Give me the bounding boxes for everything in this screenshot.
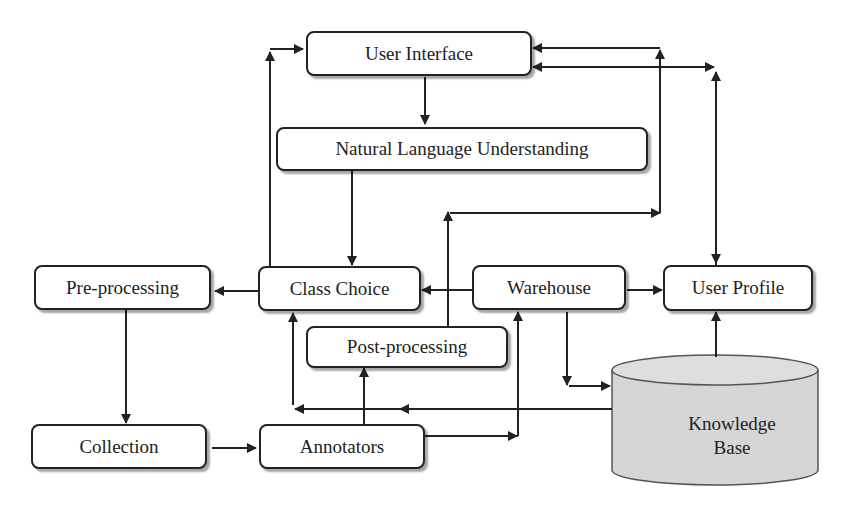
node-label: Collection <box>79 436 158 458</box>
node-label: Annotators <box>300 436 384 458</box>
node-class-choice: Class Choice <box>258 266 421 311</box>
node-label-line2: Base <box>672 436 792 460</box>
node-label: Post-processing <box>347 336 467 358</box>
node-label: Warehouse <box>507 277 591 299</box>
node-label-line1: Knowledge <box>672 412 792 436</box>
node-knowledge-base: Knowledge Base <box>672 412 792 460</box>
node-warehouse: Warehouse <box>472 265 626 310</box>
node-label: User Interface <box>365 43 473 65</box>
node-pre-processing: Pre-processing <box>34 265 211 310</box>
node-user-profile: User Profile <box>663 265 813 311</box>
node-annotators: Annotators <box>259 424 425 469</box>
node-label: Natural Language Understanding <box>335 138 588 160</box>
node-natural-language-understanding: Natural Language Understanding <box>276 127 648 171</box>
node-label: Pre-processing <box>66 277 179 299</box>
system-architecture-diagram: User Interface Natural Language Understa… <box>0 0 842 510</box>
node-label: Class Choice <box>290 278 390 300</box>
node-label: User Profile <box>692 277 784 299</box>
node-user-interface: User Interface <box>306 31 532 76</box>
node-post-processing: Post-processing <box>306 326 508 368</box>
node-collection: Collection <box>31 424 207 469</box>
